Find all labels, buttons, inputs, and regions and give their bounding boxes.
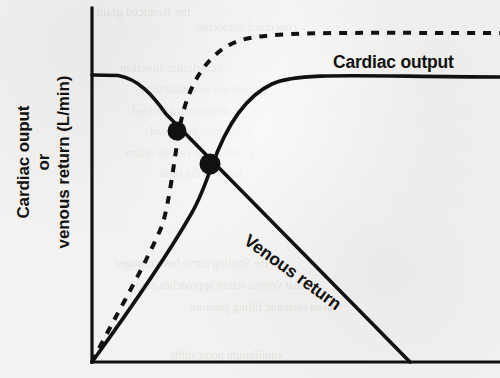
y-axis-label-line-2: or: [34, 46, 54, 278]
y-axis-label: Cardiac ouput or venous return (L/min): [14, 46, 74, 278]
cardiac-output-curve-label: Cardiac output: [333, 52, 454, 73]
y-axis-label-line-1: Cardiac ouput: [14, 46, 34, 278]
y-axis-label-line-3: venous return (L/min): [54, 46, 74, 278]
series-cardiac-output-solid: [92, 76, 500, 362]
equilibrium-point-upper: [168, 122, 187, 141]
figure-panel: the Reduced grantconcerned ultracenesven…: [0, 0, 500, 378]
equilibrium-point-lower: [200, 154, 221, 175]
series-venous-return: [92, 75, 410, 362]
series-cardiac-output-dashed: [92, 33, 500, 362]
